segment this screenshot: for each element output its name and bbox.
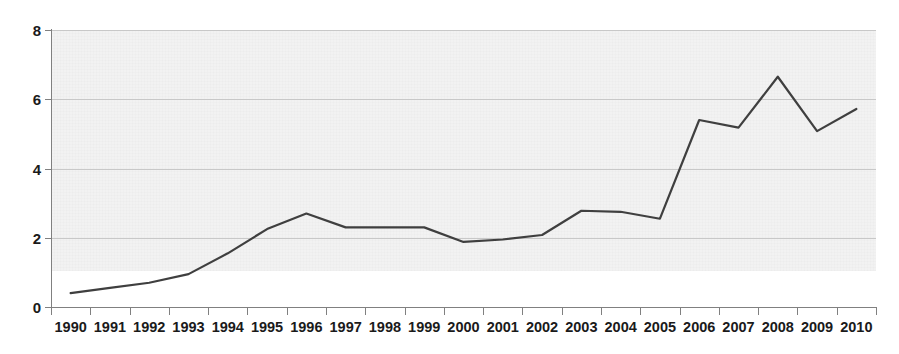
x-tick-label-1992: 1992 <box>133 320 165 335</box>
x-tick-label-2010: 2010 <box>840 320 872 335</box>
x-tick-label-1995: 1995 <box>251 320 283 335</box>
x-tick-label-2009: 2009 <box>801 320 833 335</box>
x-tick-3 <box>169 308 170 315</box>
x-tick-label-2003: 2003 <box>565 320 597 335</box>
x-tick-label-1993: 1993 <box>172 320 204 335</box>
series-polyline <box>71 77 857 293</box>
x-tick-4 <box>208 308 209 315</box>
y-tick-6 <box>45 99 52 100</box>
x-tick-2 <box>130 308 131 315</box>
x-tick-label-2007: 2007 <box>722 320 754 335</box>
x-tick-21 <box>876 308 877 315</box>
x-tick-1 <box>90 308 91 315</box>
plot-area <box>51 30 876 307</box>
x-tick-label-1998: 1998 <box>369 320 401 335</box>
y-tick-8 <box>45 30 52 31</box>
x-tick-13 <box>562 308 563 315</box>
x-tick-label-1991: 1991 <box>94 320 126 335</box>
y-tick-4 <box>45 169 52 170</box>
y-tick-label-4: 4 <box>3 162 41 177</box>
x-tick-11 <box>483 308 484 315</box>
y-axis-labels: 02468 <box>0 0 41 354</box>
x-tick-label-1999: 1999 <box>408 320 440 335</box>
y-tick-label-6: 6 <box>3 92 41 107</box>
x-tick-label-2004: 2004 <box>605 320 637 335</box>
x-tick-15 <box>640 308 641 315</box>
x-tick-9 <box>405 308 406 315</box>
x-tick-label-1996: 1996 <box>290 320 322 335</box>
x-tick-7 <box>326 308 327 315</box>
x-tick-label-1990: 1990 <box>55 320 87 335</box>
x-tick-6 <box>287 308 288 315</box>
x-tick-16 <box>680 308 681 315</box>
x-tick-label-2005: 2005 <box>644 320 676 335</box>
x-tick-18 <box>758 308 759 315</box>
x-tick-17 <box>719 308 720 315</box>
x-tick-14 <box>601 308 602 315</box>
x-tick-label-2006: 2006 <box>683 320 715 335</box>
x-tick-label-2001: 2001 <box>487 320 519 335</box>
data-series-line <box>51 30 876 307</box>
line-chart: 02468 1990199119921993199419951996199719… <box>0 0 899 354</box>
x-tick-20 <box>837 308 838 315</box>
y-tick-label-2: 2 <box>3 231 41 246</box>
x-tick-label-1997: 1997 <box>330 320 362 335</box>
y-tick-2 <box>45 238 52 239</box>
x-tick-label-1994: 1994 <box>212 320 244 335</box>
y-tick-label-0: 0 <box>3 300 41 315</box>
x-tick-5 <box>247 308 248 315</box>
x-tick-8 <box>365 308 366 315</box>
x-tick-19 <box>797 308 798 315</box>
x-tick-12 <box>522 308 523 315</box>
x-tick-label-2000: 2000 <box>447 320 479 335</box>
x-tick-0 <box>51 308 52 315</box>
x-tick-10 <box>444 308 445 315</box>
y-tick-label-8: 8 <box>3 23 41 38</box>
x-tick-label-2002: 2002 <box>526 320 558 335</box>
x-axis-line <box>51 307 877 308</box>
x-tick-label-2008: 2008 <box>762 320 794 335</box>
